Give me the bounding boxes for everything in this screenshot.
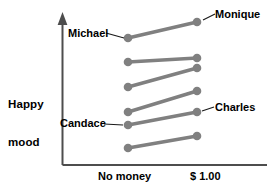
series-label-candace: Candace: [60, 117, 106, 129]
marker-right: [193, 54, 202, 63]
x-tick-label-one-dollar: $ 1.00: [190, 170, 221, 182]
marker-left: [124, 83, 133, 92]
marker-right: [193, 18, 202, 27]
leader-line-monique: [203, 14, 215, 20]
marker-left: [124, 34, 133, 43]
x-tick-label-no-money: No money: [98, 170, 151, 182]
marker-right: [193, 87, 202, 96]
leader-line-michael: [106, 33, 124, 38]
marker-left: [124, 58, 133, 67]
marker-right: [193, 64, 202, 73]
series-label-charles: Charles: [215, 101, 255, 113]
marker-right: [193, 108, 202, 117]
series-2: [124, 54, 202, 67]
series-6: [124, 132, 202, 153]
series-label-michael: Michael: [68, 27, 108, 39]
leader-line-charles: [202, 107, 214, 111]
series-michael: [124, 18, 202, 43]
y-axis: [58, 12, 68, 165]
y-axis-label-line1: Happy: [8, 98, 44, 111]
marker-left: [124, 144, 133, 153]
series-label-monique: Monique: [215, 8, 260, 20]
y-axis-label-line2: mood: [8, 136, 44, 149]
marker-left: [124, 121, 133, 130]
leader-line-candace: [104, 124, 123, 125]
series-3: [124, 64, 202, 92]
y-axis-label: Happy mood: [8, 72, 44, 175]
marker-left: [124, 108, 133, 117]
marker-right: [193, 132, 202, 141]
slopegraph-chart: Happy mood No money $ 1.00 Michael Moniq…: [0, 0, 273, 195]
